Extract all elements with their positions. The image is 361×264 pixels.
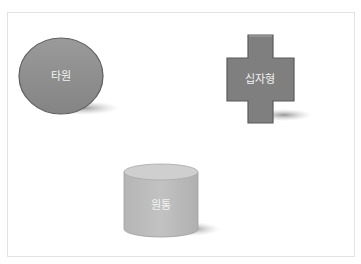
cylinder-top <box>124 164 198 180</box>
cross-label: 십자형 <box>245 73 275 86</box>
cross-shape[interactable]: 십자형 <box>227 35 312 123</box>
ellipse-shape[interactable]: 타원 <box>19 38 120 115</box>
ellipse-label: 타원 <box>51 70 71 83</box>
shapes-layer: 타원 십자형 원통 <box>0 0 361 264</box>
cylinder-label: 원통 <box>151 199 171 212</box>
cylinder-shape[interactable]: 원통 <box>124 164 220 237</box>
